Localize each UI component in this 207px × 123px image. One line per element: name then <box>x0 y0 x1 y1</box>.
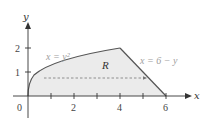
origin-label: 0 <box>17 102 22 113</box>
x-axis-arrow-icon <box>185 93 192 99</box>
curve-label-right: x = 6 − y <box>139 55 178 66</box>
y-axis-arrow-icon <box>25 22 31 29</box>
region-label: R <box>101 59 109 71</box>
x-tick-label-6: 6 <box>163 102 168 113</box>
y-axis-label: y <box>22 11 29 22</box>
y-tick-label-2: 2 <box>15 43 20 54</box>
region-diagram: y x 0 2 4 6 1 2 x = y² x = 6 − y R <box>0 0 207 123</box>
x-tick-label-4: 4 <box>117 102 122 113</box>
x-tick-label-2: 2 <box>71 102 76 113</box>
curve-label-left: x = y² <box>45 51 71 62</box>
x-axis-label: x <box>194 90 200 101</box>
y-tick-label-1: 1 <box>15 67 20 78</box>
